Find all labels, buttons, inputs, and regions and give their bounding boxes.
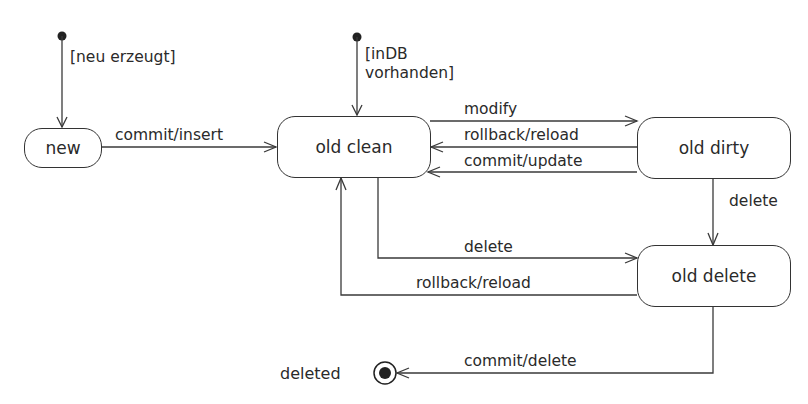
guard-indb-line2: vorhanden] <box>365 64 454 83</box>
state-old-dirty-label: old dirty <box>679 138 750 158</box>
state-old-dirty: old dirty <box>637 117 791 179</box>
label-delete-clean: delete <box>464 238 513 256</box>
final-state-dot <box>379 367 391 379</box>
state-old-clean-label: old clean <box>315 137 392 157</box>
label-commit-update: commit/update <box>464 152 582 170</box>
label-delete-dirty: delete <box>729 192 778 210</box>
state-new: new <box>24 128 102 168</box>
label-rollback-reload-delete: rollback/reload <box>416 274 531 292</box>
final-state-label: deleted <box>280 365 341 383</box>
label-commit-insert: commit/insert <box>115 126 223 144</box>
state-old-delete-label: old delete <box>672 266 757 286</box>
state-diagram: new old clean old dirty old delete [neu … <box>0 0 808 404</box>
state-new-label: new <box>45 138 80 158</box>
guard-indb-line1: [inDB <box>365 45 454 64</box>
label-commit-delete: commit/delete <box>464 352 577 370</box>
guard-neu-erzeugt: [neu erzeugt] <box>70 48 176 66</box>
guard-indb-vorhanden: [inDB vorhanden] <box>365 45 454 83</box>
state-old-clean: old clean <box>277 116 431 178</box>
label-modify: modify <box>464 100 517 118</box>
label-rollback-reload-dirty: rollback/reload <box>464 126 579 144</box>
state-old-delete: old delete <box>637 245 791 307</box>
